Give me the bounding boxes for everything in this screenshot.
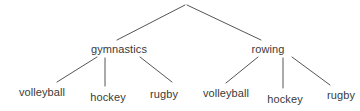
tree-edge-gymnastics-to-volleyball-left: [57, 57, 97, 82]
tree-node-volleyball-right: volleyball: [203, 88, 249, 99]
tree-diagram: gymnasticsrowingvolleyballhockeyrugbyvol…: [0, 0, 360, 111]
tree-node-volleyball-left: volleyball: [19, 87, 65, 98]
tree-edge-rowing-to-volleyball-right: [226, 57, 258, 83]
tree-edge-root-to-rowing: [187, 5, 261, 40]
tree-edge-rowing-to-rugby-right: [292, 57, 330, 85]
tree-node-hockey-right: hockey: [267, 94, 302, 105]
tree-node-rowing: rowing: [251, 44, 284, 55]
tree-edge-root-to-gymnastics: [117, 5, 185, 40]
tree-node-hockey-left: hockey: [90, 92, 125, 103]
tree-node-rugby-right: rugby: [327, 90, 355, 101]
tree-node-rugby-left: rugby: [150, 89, 178, 100]
tree-node-gymnastics: gymnastics: [91, 44, 147, 55]
tree-edge-gymnastics-to-rugby-left: [140, 57, 172, 82]
